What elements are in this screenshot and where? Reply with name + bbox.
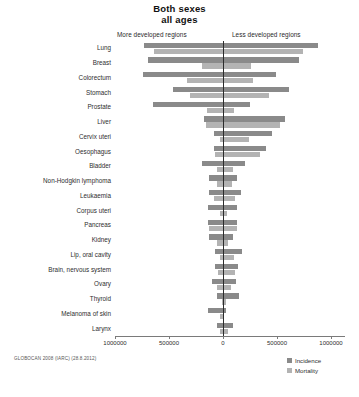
category-label: Corpus uteri (0, 207, 111, 214)
bar-incidence-more-developed (173, 87, 223, 92)
legend-swatch-icon (287, 368, 292, 373)
category-label: Ovary (0, 280, 111, 287)
region-label-less-developed: Less developed regions (232, 31, 301, 38)
category-label: Non-Hodgkin lymphoma (0, 177, 111, 184)
legend-label: Mortality (295, 367, 318, 374)
bar-incidence-more-developed (208, 205, 223, 210)
bar-incidence-less-developed (223, 234, 233, 239)
bar-mortality-more-developed (154, 49, 223, 54)
category-label: Pancreas (0, 221, 111, 228)
bar-mortality-less-developed (223, 152, 260, 157)
bar-row (115, 189, 345, 204)
bar-incidence-more-developed (217, 293, 223, 298)
bar-incidence-more-developed (215, 249, 223, 254)
bar-row (115, 144, 345, 159)
bar-mortality-less-developed (223, 122, 280, 127)
x-axis-tick-label: 1000000 (319, 340, 342, 346)
bar-incidence-less-developed (223, 87, 289, 92)
category-label: Brain, nervous system (0, 266, 111, 273)
bar-mortality-less-developed (223, 255, 234, 260)
bar-row (115, 41, 345, 56)
bar-mortality-less-developed (223, 196, 235, 201)
bar-mortality-more-developed (207, 108, 223, 113)
bar-mortality-less-developed (223, 78, 253, 83)
bar-mortality-more-developed (217, 285, 223, 290)
bar-incidence-less-developed (223, 323, 233, 328)
bar-incidence-more-developed (208, 220, 223, 225)
bar-row (115, 233, 345, 248)
bar-row (115, 218, 345, 233)
x-axis-tick-label: 1000000 (103, 340, 126, 346)
bar-mortality-more-developed (215, 152, 223, 157)
bar-mortality-more-developed (187, 78, 223, 83)
bar-incidence-more-developed (209, 175, 223, 180)
category-label: Stomach (0, 89, 111, 96)
bar-mortality-less-developed (223, 49, 303, 54)
bar-incidence-more-developed (202, 161, 223, 166)
legend-label: Incidence (295, 357, 321, 364)
bar-mortality-more-developed (217, 167, 223, 172)
chart-title: Both sexes all ages (0, 3, 359, 25)
bar-mortality-more-developed (190, 93, 223, 98)
chart-title-line-2: all ages (0, 14, 359, 25)
x-axis-tick (277, 336, 278, 339)
legend-item: Incidence (287, 356, 321, 365)
bar-mortality-less-developed (223, 93, 269, 98)
x-axis-line (115, 336, 345, 337)
bar-incidence-more-developed (214, 131, 223, 136)
x-axis-tick (331, 336, 332, 339)
zero-axis-line (223, 41, 224, 336)
bar-incidence-more-developed (209, 190, 223, 195)
bar-row (115, 307, 345, 322)
bar-incidence-more-developed (209, 234, 223, 239)
x-axis-tick (115, 336, 116, 339)
bar-incidence-more-developed (208, 308, 223, 313)
bar-incidence-less-developed (223, 175, 237, 180)
bar-incidence-more-developed (153, 102, 223, 107)
bar-incidence-less-developed (223, 190, 241, 195)
bar-incidence-more-developed (204, 116, 223, 121)
bar-row (115, 85, 345, 100)
bar-incidence-more-developed (143, 72, 223, 77)
bar-incidence-more-developed (215, 264, 223, 269)
bar-mortality-less-developed (223, 285, 231, 290)
x-axis-tick-label: 500000 (267, 340, 287, 346)
chart-container: Both sexes all ages More developed regio… (0, 0, 359, 397)
chart-legend: IncidenceMortality (287, 356, 321, 376)
bar-incidence-less-developed (223, 131, 272, 136)
bar-incidence-more-developed (148, 57, 223, 62)
bar-row (115, 100, 345, 115)
bar-row (115, 248, 345, 263)
category-label: Lip, oral cavity (0, 251, 111, 258)
region-label-more-developed: More developed regions (117, 31, 187, 38)
bar-row (115, 115, 345, 130)
category-label: Bladder (0, 162, 111, 169)
bar-incidence-less-developed (223, 161, 245, 166)
bar-row (115, 174, 345, 189)
bar-incidence-less-developed (223, 205, 237, 210)
bar-incidence-less-developed (223, 293, 239, 298)
bar-row (115, 130, 345, 145)
bar-mortality-more-developed (209, 226, 223, 231)
bar-incidence-less-developed (223, 102, 250, 107)
category-label: Larynx (0, 325, 111, 332)
x-axis-tick-label: 0 (221, 340, 224, 346)
bar-incidence-more-developed (144, 43, 223, 48)
bar-incidence-less-developed (223, 116, 285, 121)
bar-incidence-more-developed (212, 279, 223, 284)
category-label: Colorectum (0, 74, 111, 81)
bar-mortality-more-developed (206, 122, 223, 127)
category-label: Leukaemia (0, 192, 111, 199)
bar-mortality-more-developed (202, 63, 223, 68)
bar-row (115, 292, 345, 307)
category-label: Kidney (0, 236, 111, 243)
bar-incidence-less-developed (223, 72, 276, 77)
bar-row (115, 56, 345, 71)
bar-incidence-less-developed (223, 220, 237, 225)
bar-incidence-more-developed (217, 323, 223, 328)
bar-mortality-more-developed (217, 240, 223, 245)
bar-mortality-less-developed (223, 167, 233, 172)
x-axis-tick (223, 336, 224, 339)
bar-row (115, 71, 345, 86)
category-label: Breast (0, 59, 111, 66)
